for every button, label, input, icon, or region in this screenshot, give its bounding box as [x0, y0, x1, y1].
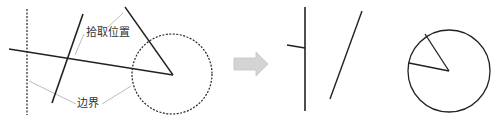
- trimmed-diagonal-line: [330, 11, 362, 99]
- leader-pick-2: [108, 13, 123, 27]
- radius-line: [125, 7, 173, 75]
- before-panel: [9, 7, 212, 115]
- wedge-radius-2: [409, 63, 449, 71]
- after-panel: [287, 7, 490, 112]
- trim-diagram: 拾取位置 边界: [0, 0, 498, 128]
- boundary-label: 边界: [76, 98, 100, 109]
- stub-line: [287, 45, 305, 48]
- pick-position-label: 拾取位置: [85, 27, 131, 38]
- diagonal-line: [52, 14, 83, 103]
- leader-boundary-2: [102, 86, 131, 104]
- right-arrow-icon: [234, 52, 268, 76]
- leader-pick-1: [75, 34, 84, 55]
- diagram-figure: [0, 0, 498, 128]
- long-line: [9, 49, 173, 75]
- wedge-radius-1: [425, 34, 449, 71]
